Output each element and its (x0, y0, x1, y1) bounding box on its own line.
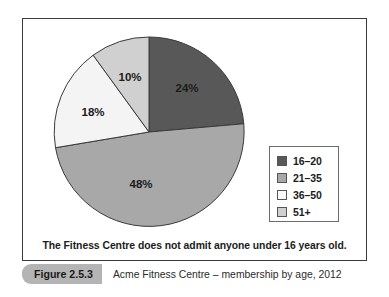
figure-caption: Figure 2.5.3 Acme Fitness Centre – membe… (22, 264, 367, 284)
legend-item-label: 36–50 (293, 189, 322, 201)
figure-caption-text: Acme Fitness Centre – membership by age,… (102, 264, 342, 284)
pie-label-51-plus: 10% (118, 71, 141, 83)
pie-chart-svg: 24% 48% 18% 10% (53, 36, 245, 228)
legend-item-label: 21–35 (293, 172, 322, 184)
figure-number-tag: Figure 2.5.3 (22, 264, 102, 284)
pie-chart: 24% 48% 18% 10% (53, 36, 245, 228)
legend-item-21-35[interactable]: 21–35 (277, 170, 338, 186)
legend-item-36-50[interactable]: 36–50 (277, 187, 338, 203)
pie-label-16-20: 24% (175, 82, 198, 94)
chart-frame: 24% 48% 18% 10% 16–20 21–35 36–50 51+ (22, 18, 367, 261)
legend-item-16-20[interactable]: 16–20 (277, 153, 338, 169)
figure-container: 24% 48% 18% 10% 16–20 21–35 36–50 51+ (0, 0, 389, 297)
pie-label-21-35: 48% (129, 178, 152, 190)
chart-note: The Fitness Centre does not admit anyone… (23, 240, 366, 251)
legend-swatch-icon (277, 156, 287, 166)
legend-item-51-plus[interactable]: 51+ (277, 204, 338, 220)
legend-item-label: 51+ (293, 206, 311, 218)
legend-item-label: 16–20 (293, 155, 322, 167)
chart-legend: 16–20 21–35 36–50 51+ (269, 146, 339, 222)
legend-swatch-icon (277, 190, 287, 200)
legend-swatch-icon (277, 207, 287, 217)
pie-label-36-50: 18% (81, 106, 104, 118)
legend-swatch-icon (277, 173, 287, 183)
